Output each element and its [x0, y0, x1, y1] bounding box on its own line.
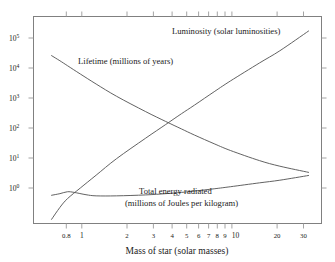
chart-background: [0, 0, 335, 262]
ytick-exponent-0: 0: [17, 183, 20, 189]
xtick-label-10: 10: [232, 231, 240, 240]
xtick-label-6: 6: [197, 232, 201, 239]
xtick-label-11: 20: [274, 232, 281, 239]
xtick-label-12: 30: [300, 232, 307, 239]
xtick-label-7: 7: [207, 232, 211, 239]
xtick-label-1: 1: [80, 231, 84, 240]
label-lifetime: Lifetime (millions of years): [78, 56, 173, 66]
x-axis-title: Mass of star (solar masses): [126, 246, 229, 257]
label-total-energy-line1: Total energy radiated: [139, 186, 212, 196]
ytick-exponent-5: 5: [17, 33, 20, 39]
label-total-energy-line2: (millions of Joules per kilogram): [125, 198, 238, 208]
chart-figure: 105 104 103 102 101 100: [0, 0, 335, 262]
xtick-label-9: 9: [223, 232, 227, 239]
ytick-exponent-1: 1: [17, 153, 20, 159]
chart-svg: 105 104 103 102 101 100: [0, 0, 335, 262]
xtick-label-2: 2: [125, 232, 129, 239]
ytick-exponent-4: 4: [17, 63, 20, 69]
label-luminosity: Luminosity (solar luminosities): [172, 26, 281, 36]
xtick-label-3: 3: [152, 232, 156, 239]
xtick-label-8: 8: [216, 232, 220, 239]
xtick-label-4: 4: [170, 232, 174, 239]
ytick-exponent-3: 3: [17, 93, 20, 99]
xtick-label-5: 5: [185, 232, 189, 239]
ytick-exponent-2: 2: [17, 123, 20, 129]
xtick-label-0: 0.8: [62, 232, 71, 239]
